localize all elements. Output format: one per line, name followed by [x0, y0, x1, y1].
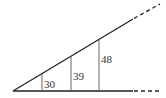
- wedge-diagram: 30 39 48: [0, 0, 166, 98]
- label-30: 30: [44, 78, 56, 90]
- label-39: 39: [73, 70, 85, 82]
- upper-line-dashed: [134, 4, 160, 18]
- label-48: 48: [101, 53, 113, 65]
